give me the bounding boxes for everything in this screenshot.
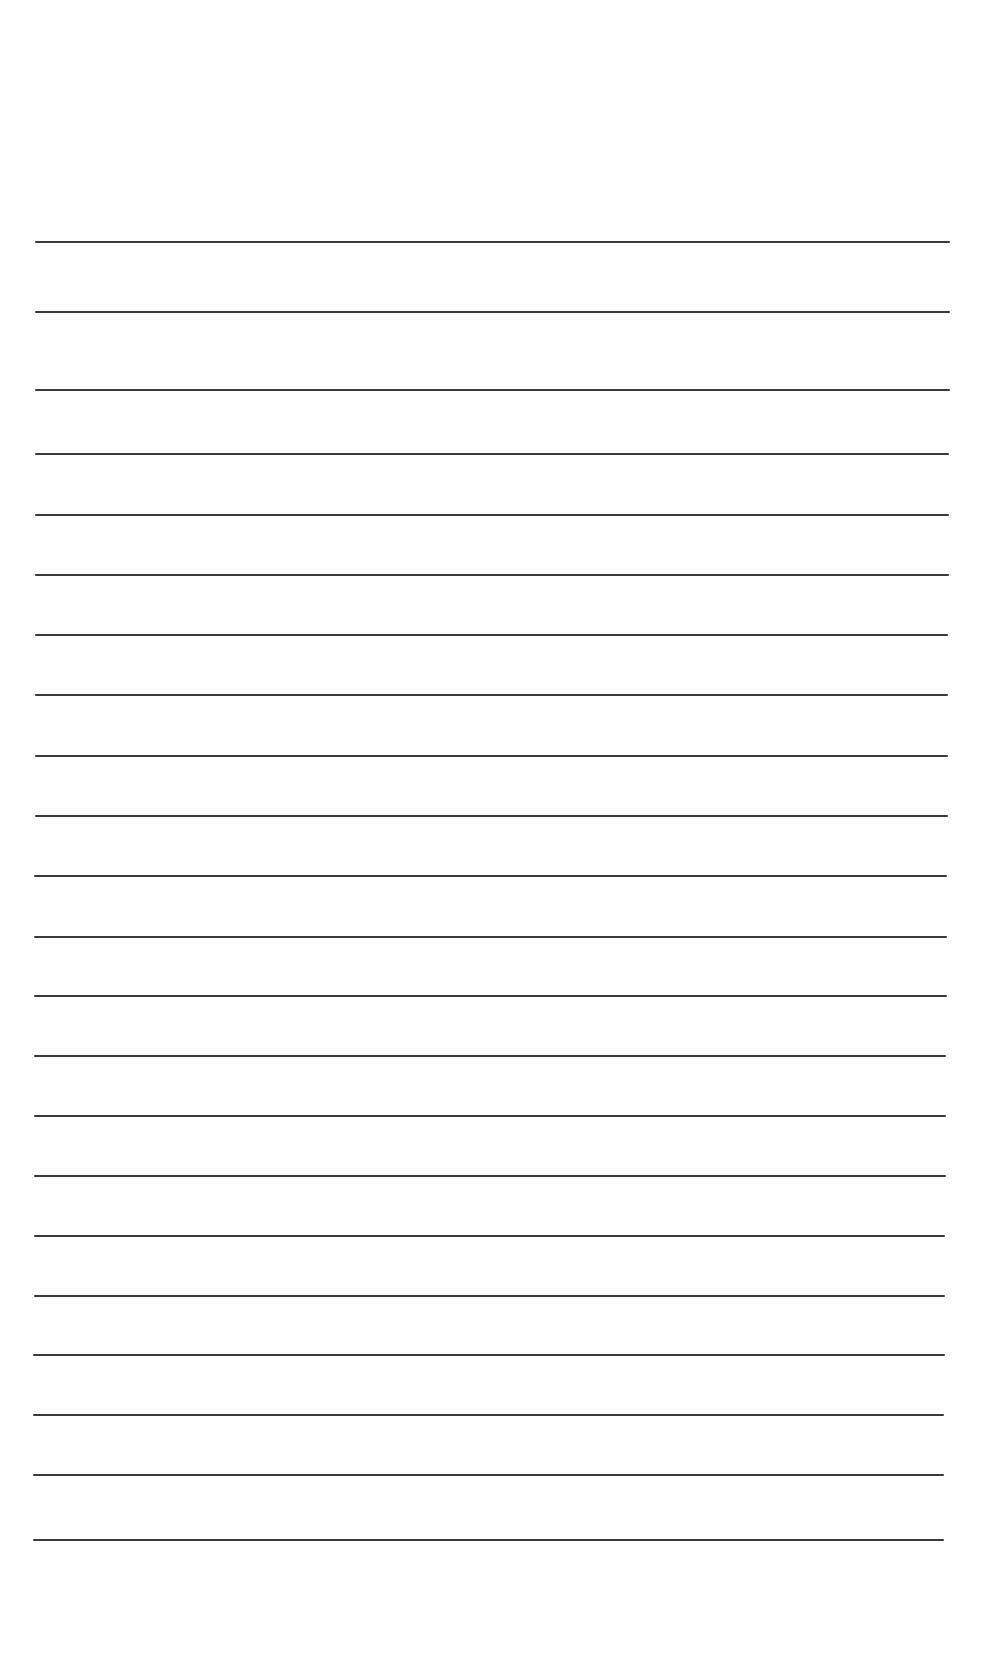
ruled-line <box>35 634 948 636</box>
ruled-line <box>35 514 949 516</box>
ruled-line <box>34 1295 945 1297</box>
ruled-line <box>35 755 948 757</box>
ruled-page <box>0 0 1008 1655</box>
ruled-line <box>35 389 950 391</box>
ruled-line <box>34 875 947 877</box>
ruled-line <box>34 1235 945 1237</box>
ruled-line <box>35 241 950 243</box>
ruled-line <box>35 311 950 313</box>
ruled-line <box>35 453 949 455</box>
ruled-line <box>33 1539 944 1541</box>
ruled-line <box>34 1055 946 1057</box>
ruled-line <box>33 1474 944 1476</box>
ruled-line <box>35 815 948 817</box>
ruled-line <box>34 1115 946 1117</box>
ruled-line <box>33 1414 944 1416</box>
ruled-line <box>34 936 947 938</box>
ruled-line <box>35 694 948 696</box>
ruled-line <box>34 995 947 997</box>
ruled-line <box>33 1354 945 1356</box>
ruled-line <box>34 1175 946 1177</box>
ruled-line <box>35 574 949 576</box>
